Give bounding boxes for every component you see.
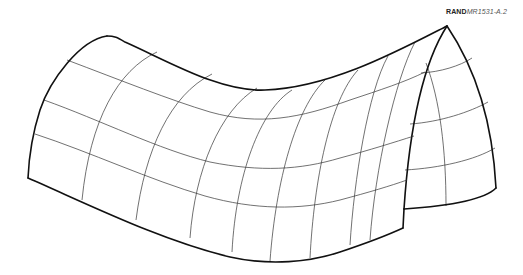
- main-grid-v8: [370, 42, 415, 240]
- main-top-edge: [107, 26, 447, 90]
- main-bottom-edge: [28, 178, 403, 262]
- right-grid-h3: [405, 148, 495, 170]
- main-saddle-section: [28, 26, 447, 262]
- main-left-arc-edge: [28, 36, 107, 178]
- right-back-edge: [447, 26, 496, 188]
- main-grid-v2: [136, 74, 212, 220]
- figure-canvas: RANDMR1531-A.2: [0, 0, 523, 275]
- wireframe-surface: [0, 0, 523, 275]
- right-front-edge: [404, 26, 447, 209]
- main-grid-v1: [82, 52, 157, 200]
- right-bottom-edge: [404, 188, 496, 209]
- main-grid-h3: [35, 134, 407, 207]
- right-grid-h2: [410, 102, 488, 124]
- step-edge: [403, 209, 404, 228]
- right-grid-v1: [426, 63, 446, 206]
- main-grid-v4: [232, 90, 292, 252]
- main-grid-h2: [44, 100, 414, 168]
- right-arch-section: [404, 26, 496, 209]
- main-grid-v5: [270, 80, 325, 261]
